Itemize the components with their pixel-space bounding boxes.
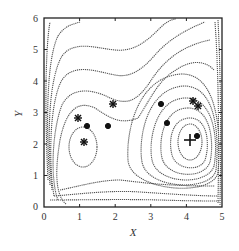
x-tick-label: 5 — [220, 211, 225, 222]
star-marker — [109, 100, 117, 108]
x-axis-label: X — [129, 226, 138, 238]
y-tick-label: 2 — [33, 139, 38, 150]
y-tick-label: 3 — [33, 107, 38, 118]
contour-lines — [46, 19, 221, 205]
x-tick-labels: 0 1 2 3 4 5 — [42, 211, 225, 222]
star-marker — [74, 114, 82, 122]
dot-marker — [105, 123, 110, 128]
dot-marker — [164, 120, 169, 125]
y-tick-label: 6 — [33, 13, 38, 24]
y-tick-label: 5 — [33, 44, 38, 55]
x-ticks — [80, 18, 187, 207]
y-axis-label: Y — [12, 109, 24, 117]
star-marker — [194, 102, 202, 110]
y-tick-labels: 0 1 2 3 4 5 6 — [33, 13, 38, 212]
x-tick-label: 1 — [77, 211, 82, 222]
x-tick-label: 0 — [42, 211, 47, 222]
star-marker — [80, 138, 88, 146]
x-tick-label: 3 — [148, 211, 153, 222]
y-tick-label: 0 — [33, 201, 38, 212]
x-tick-label: 4 — [184, 211, 189, 222]
y-tick-label: 4 — [33, 76, 38, 87]
x-tick-label: 2 — [113, 211, 118, 222]
dot-marker — [158, 101, 163, 106]
y-tick-label: 1 — [33, 170, 38, 181]
dot-marker — [194, 133, 199, 138]
dot-marker — [84, 123, 89, 128]
markers — [74, 97, 202, 146]
contour-chart: 0 1 2 3 4 5 0 1 2 3 4 5 6 X Y — [0, 0, 239, 251]
